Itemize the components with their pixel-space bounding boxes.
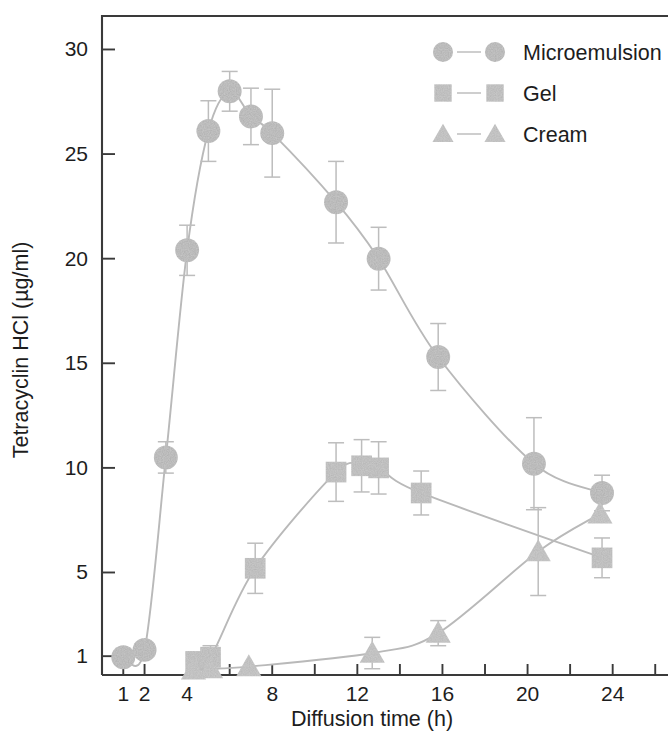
- y-tick-label: 15: [65, 351, 88, 374]
- plot-frame: [102, 16, 668, 675]
- chart-legend: MicroemulsionGelCream: [432, 41, 661, 147]
- legend-marker-square: [434, 84, 451, 101]
- y-tick-label: 10: [65, 456, 88, 479]
- legend-item-microemulsion[interactable]: Microemulsion: [433, 41, 662, 65]
- data-point: [426, 345, 450, 369]
- data-point: [367, 247, 391, 271]
- error-bars: [364, 508, 546, 669]
- x-tick-label: 1: [117, 682, 129, 705]
- y-tick-label: 1: [76, 644, 88, 667]
- x-tick-label: 4: [181, 682, 193, 705]
- y-tick-label: 5: [76, 560, 88, 583]
- data-point: [245, 558, 266, 579]
- legend-label: Gel: [523, 82, 556, 106]
- data-markers: [181, 502, 613, 680]
- x-tick-label: 2: [139, 682, 151, 705]
- legend-marker-circle: [485, 42, 505, 62]
- y-tick-label: 30: [65, 37, 88, 60]
- data-point: [175, 238, 199, 262]
- data-markers: [185, 455, 612, 671]
- data-series-layer: [111, 71, 614, 679]
- data-point: [368, 458, 389, 479]
- legend-marker-circle: [433, 42, 453, 62]
- x-tick-label: 12: [346, 682, 369, 705]
- legend-marker-triangle: [432, 124, 453, 142]
- legend-item-gel[interactable]: Gel: [434, 82, 556, 106]
- legend-item-cream[interactable]: Cream: [432, 123, 587, 147]
- data-point: [111, 645, 135, 669]
- x-tick-label: 8: [266, 682, 278, 705]
- series-cream: [181, 502, 613, 680]
- diffusion-time-chart: 124812162024 151015202530 MicroemulsionG…: [0, 0, 672, 735]
- x-tick-label: 20: [516, 682, 539, 705]
- data-point: [239, 104, 263, 128]
- data-point: [592, 548, 613, 569]
- y-axis-tick-labels: 151015202530: [65, 37, 88, 667]
- data-point: [218, 79, 242, 103]
- x-tick-label: 16: [431, 682, 454, 705]
- series-line: [123, 91, 602, 666]
- data-point: [196, 119, 220, 143]
- data-point: [411, 483, 432, 504]
- y-axis-title: Tetracyclin HCl (µg/ml): [9, 242, 33, 459]
- chart-figure: 124812162024 151015202530 MicroemulsionG…: [0, 0, 672, 735]
- data-point: [260, 121, 284, 145]
- y-tick-label: 25: [65, 142, 88, 165]
- data-point: [133, 638, 157, 662]
- x-tick-label: 24: [601, 682, 625, 705]
- data-point: [326, 462, 347, 483]
- data-point: [426, 621, 451, 643]
- legend-marker-square: [486, 84, 503, 101]
- data-point: [590, 481, 614, 505]
- y-tick-label: 20: [65, 247, 88, 270]
- y-axis-ticks: [102, 49, 115, 656]
- data-point: [526, 539, 551, 561]
- data-point: [324, 190, 348, 214]
- data-point: [522, 452, 546, 476]
- legend-marker-triangle: [484, 124, 505, 142]
- x-axis-tick-labels: 124812162024: [117, 682, 624, 705]
- x-axis-title: Diffusion time (h): [291, 707, 453, 731]
- legend-label: Cream: [523, 123, 588, 147]
- legend-label: Microemulsion: [523, 41, 662, 65]
- data-point: [587, 502, 612, 524]
- data-point: [154, 445, 178, 469]
